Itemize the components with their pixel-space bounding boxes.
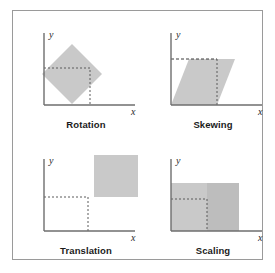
- translation-caption: Translation: [32, 245, 140, 256]
- figure-frame: y x Rotation y x Skewing: [12, 10, 263, 260]
- scaling-overlap-region: [207, 183, 239, 231]
- translation-y-axis-label: y: [48, 155, 54, 166]
- scaling-caption: Scaling: [159, 245, 267, 256]
- rotation-y-axis-label: y: [48, 29, 54, 40]
- skewing-shape: [171, 59, 235, 105]
- panel-scaling: y x Scaling: [159, 153, 267, 265]
- translation-original-square-guide: [44, 197, 88, 231]
- skewing-y-axis-label: y: [175, 29, 181, 40]
- translation-plot: y x: [32, 153, 140, 245]
- scaling-y-axis-label: y: [175, 155, 181, 166]
- panel-rotation: y x Rotation: [32, 27, 140, 139]
- skewing-x-axis-label: x: [257, 106, 263, 117]
- rotation-plot: y x: [32, 27, 140, 119]
- transformations-figure: y x Rotation y x Skewing: [0, 0, 275, 273]
- skewing-plot: y x: [159, 27, 267, 119]
- rotation-shape: [42, 44, 102, 104]
- panel-translation: y x Translation: [32, 153, 140, 265]
- rotation-x-axis-label: x: [130, 106, 136, 117]
- translation-shape: [94, 155, 138, 197]
- scaling-x-axis-label: x: [257, 232, 263, 243]
- panel-skewing: y x Skewing: [159, 27, 267, 139]
- translation-x-axis-label: x: [130, 232, 136, 243]
- skewing-caption: Skewing: [159, 119, 267, 130]
- scaling-plot: y x: [159, 153, 267, 245]
- rotation-caption: Rotation: [32, 119, 140, 130]
